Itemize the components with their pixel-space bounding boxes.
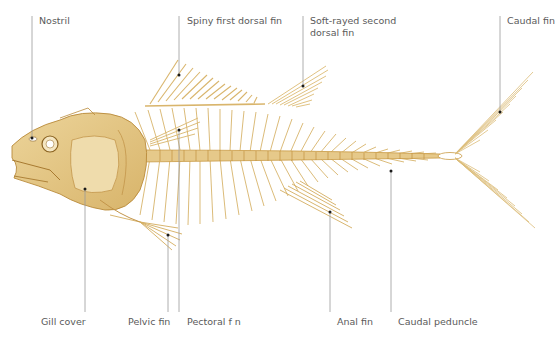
label-caudal-fin: Caudal fin — [507, 15, 555, 27]
soft-dorsal-fin — [268, 66, 328, 107]
label-caudal-peduncle: Caudal peduncle — [398, 316, 478, 328]
pelvic-fin-rays — [110, 215, 182, 250]
label-pectoral-fin: Pectoral f n — [187, 316, 241, 328]
label-nostril: Nostril — [39, 15, 70, 27]
lower-ribs — [140, 158, 428, 225]
label-pelvic-fin: Pelvic fin — [128, 316, 170, 328]
label-spiny-dorsal-fin: Spiny first dorsal fin — [187, 15, 282, 27]
label-anal-fin: Anal fin — [337, 316, 373, 328]
label-soft-dorsal-fin: Soft-rayed second dorsal fin — [310, 15, 405, 39]
fish-skeleton-diagram — [0, 0, 558, 337]
caudal-fin-rays — [455, 72, 535, 228]
upper-ribs — [135, 108, 436, 154]
label-gill-cover: Gill cover — [41, 316, 86, 328]
anal-fin-rays — [280, 181, 352, 228]
spiny-dorsal-fin — [145, 60, 265, 106]
